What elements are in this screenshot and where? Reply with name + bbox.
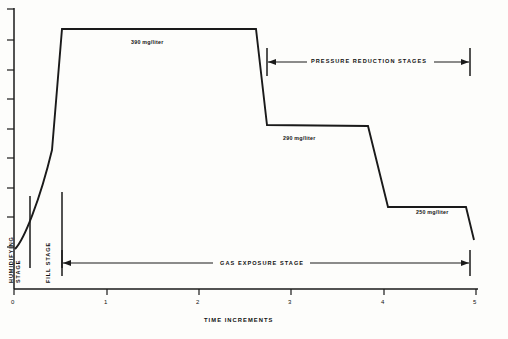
- x-axis-title: TIME INCREMENTS: [204, 317, 274, 323]
- humidifying-stage-label-line1: HUMIDIFYING: [8, 236, 14, 283]
- concentration-label-290: 290 mg/liter: [283, 135, 315, 141]
- x-tick-label-4: 4: [381, 299, 384, 305]
- concentration-label-390: 390 mg/liter: [131, 39, 163, 45]
- chart-figure: 390 mg/liter 290 mg/liter 250 mg/liter P…: [0, 0, 508, 339]
- x-tick-label-5: 5: [473, 299, 476, 305]
- x-tick-label-1: 1: [104, 299, 107, 305]
- pressure-reduction-stages-label: PRESSURE REDUCTION STAGES: [311, 58, 427, 64]
- gas-exposure-stage-label: GAS EXPOSURE STAGE: [220, 260, 304, 266]
- chart-plot-area: [0, 0, 508, 339]
- x-tick-label-0: 0: [11, 299, 14, 305]
- x-tick-label-2: 2: [196, 299, 199, 305]
- x-axis-ticks: [14, 289, 476, 295]
- fill-stage-label: FILL STAGE: [45, 242, 51, 283]
- x-tick-label-3: 3: [288, 299, 291, 305]
- humidifying-stage-label-line2: STAGE: [15, 260, 21, 283]
- concentration-label-250: 250 mg/liter: [416, 209, 448, 215]
- y-axis-ticks: [7, 9, 14, 247]
